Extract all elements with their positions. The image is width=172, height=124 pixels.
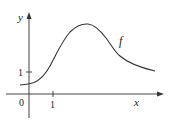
x-tick-label-1: 1 <box>50 99 55 110</box>
curve-label-f: f <box>119 34 124 48</box>
x-axis-arrow-icon <box>157 92 164 97</box>
y-axis-arrow-icon <box>27 12 32 19</box>
y-tick-label-1: 1 <box>18 67 23 78</box>
curve-f <box>20 24 155 85</box>
x-axis-label: x <box>133 96 139 108</box>
y-axis-label: y <box>17 11 23 23</box>
function-graph: y x 0 1 1 f <box>0 0 172 124</box>
origin-label: 0 <box>19 97 24 108</box>
